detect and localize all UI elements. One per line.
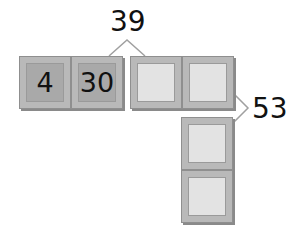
- tile-2-value: 30: [78, 63, 116, 102]
- top-sum-label: 39: [110, 8, 146, 36]
- tile-4-value: [189, 63, 227, 102]
- tile-2[interactable]: 30: [71, 56, 123, 109]
- tile-3-value: [137, 63, 175, 102]
- tile-6[interactable]: [181, 170, 233, 223]
- tile-3[interactable]: [130, 56, 182, 109]
- top-bracket: [109, 40, 145, 56]
- right-sum-label: 53: [252, 95, 288, 123]
- tile-1-value: 4: [26, 63, 64, 102]
- tile-5-value: [188, 124, 226, 163]
- tile-1[interactable]: 4: [19, 56, 71, 109]
- tile-6-value: [188, 177, 226, 216]
- tile-5[interactable]: [181, 117, 233, 170]
- right-bracket: [234, 94, 248, 122]
- tile-4[interactable]: [182, 56, 234, 109]
